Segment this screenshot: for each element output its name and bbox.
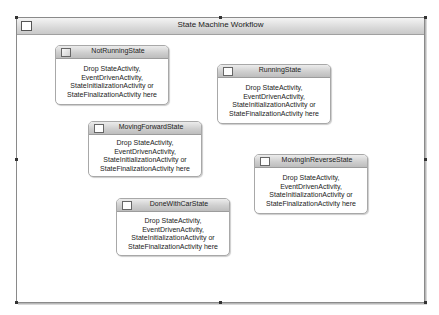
resize-handle-top-left[interactable] bbox=[15, 16, 18, 19]
resize-handle-top-right[interactable] bbox=[424, 16, 427, 19]
hint-line: StateInitializationActivity or bbox=[119, 234, 227, 243]
state-header[interactable]: RunningState bbox=[218, 65, 330, 78]
hint-line: EventDrivenActivity, bbox=[91, 148, 199, 157]
resize-handle-bottom-right[interactable] bbox=[424, 301, 427, 304]
state-running[interactable]: RunningState Drop StateActivity, EventDr… bbox=[217, 64, 331, 124]
hint-line: Drop StateActivity, bbox=[220, 84, 328, 93]
state-header[interactable]: DoneWithCarState bbox=[117, 199, 229, 212]
state-title: NotRunningState bbox=[70, 47, 166, 54]
hint-line: StateFinalizationActivity here bbox=[119, 243, 227, 252]
resize-handle-top[interactable] bbox=[219, 16, 222, 19]
workflow-header[interactable]: State Machine Workflow bbox=[17, 18, 424, 35]
hint-line: Drop StateActivity, bbox=[91, 139, 199, 148]
state-title: MovingInReverseState bbox=[269, 156, 365, 163]
hint-line: StateFinalizationActivity here bbox=[220, 110, 328, 119]
resize-handle-left[interactable] bbox=[15, 158, 18, 161]
hint-line: Drop StateActivity, bbox=[119, 217, 227, 226]
state-machine-workflow[interactable]: State Machine Workflow NotRunningState D… bbox=[16, 17, 425, 303]
drop-hint[interactable]: Drop StateActivity, EventDrivenActivity,… bbox=[117, 212, 229, 255]
hint-line: StateFinalizationActivity here bbox=[257, 200, 365, 209]
state-header[interactable]: NotRunningState bbox=[56, 46, 168, 59]
state-header[interactable]: MovingInReverseState bbox=[255, 155, 367, 168]
drop-hint[interactable]: Drop StateActivity, EventDrivenActivity,… bbox=[218, 78, 330, 123]
hint-line: StateInitializationActivity or bbox=[220, 101, 328, 110]
resize-handle-bottom[interactable] bbox=[219, 301, 222, 304]
hint-line: StateInitializationActivity or bbox=[58, 82, 166, 91]
drop-hint[interactable]: Drop StateActivity, EventDrivenActivity,… bbox=[255, 168, 367, 213]
state-moving-in-reverse[interactable]: MovingInReverseState Drop StateActivity,… bbox=[254, 154, 368, 214]
state-title: MovingForwardState bbox=[103, 123, 199, 130]
hint-line: EventDrivenActivity, bbox=[119, 226, 227, 235]
hint-line: Drop StateActivity, bbox=[257, 174, 365, 183]
state-header[interactable]: MovingForwardState bbox=[89, 122, 201, 135]
state-title: RunningState bbox=[232, 66, 328, 73]
state-not-running[interactable]: NotRunningState Drop StateActivity, Even… bbox=[55, 45, 169, 105]
hint-line: StateFinalizationActivity here bbox=[58, 91, 166, 100]
state-moving-forward[interactable]: MovingForwardState Drop StateActivity, E… bbox=[88, 121, 202, 177]
resize-handle-bottom-left[interactable] bbox=[15, 301, 18, 304]
drop-hint[interactable]: Drop StateActivity, EventDrivenActivity,… bbox=[89, 135, 201, 176]
drop-hint[interactable]: Drop StateActivity, EventDrivenActivity,… bbox=[56, 59, 168, 104]
hint-line: StateInitializationActivity or bbox=[257, 191, 365, 200]
resize-handle-right[interactable] bbox=[424, 158, 427, 161]
hint-line: Drop StateActivity, bbox=[58, 65, 166, 74]
hint-line: StateFinalizationActivity here bbox=[91, 165, 199, 174]
hint-line: EventDrivenActivity, bbox=[220, 93, 328, 102]
hint-line: EventDrivenActivity, bbox=[58, 74, 166, 83]
workflow-title: State Machine Workflow bbox=[17, 20, 424, 29]
hint-line: StateInitializationActivity or bbox=[91, 156, 199, 165]
state-done-with-car[interactable]: DoneWithCarState Drop StateActivity, Eve… bbox=[116, 198, 230, 256]
state-title: DoneWithCarState bbox=[131, 200, 227, 207]
hint-line: EventDrivenActivity, bbox=[257, 183, 365, 192]
